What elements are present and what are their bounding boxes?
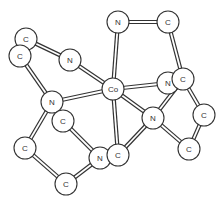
atom-c2: C <box>9 45 31 67</box>
atom-label: C <box>115 151 121 160</box>
atom-label: N <box>165 79 171 88</box>
atom-n4: N <box>41 91 63 113</box>
atom-c8: C <box>107 144 129 166</box>
atom-c5: C <box>52 110 74 132</box>
atom-label: C <box>63 180 69 189</box>
atom-c7: C <box>14 137 36 159</box>
atom-label: N <box>67 56 73 65</box>
atom-label: C <box>17 52 23 61</box>
atom-c9: C <box>178 138 200 160</box>
atom-c3: C <box>157 11 179 33</box>
atom-n5: N <box>142 107 164 129</box>
atom-label: C <box>23 35 29 44</box>
atom-label: N <box>150 114 156 123</box>
cobalt-complex-diagram: NCNCCCoNCNCNCCCNCC <box>0 0 224 201</box>
atom-label: N <box>115 18 121 27</box>
atom-label: C <box>60 117 66 126</box>
atom-c6: C <box>193 104 215 126</box>
atom-label: C <box>201 111 207 120</box>
atom-n1: N <box>59 49 81 71</box>
atom-label: C <box>180 75 186 84</box>
atom-label: C <box>165 18 171 27</box>
atom-co: Co <box>102 78 124 100</box>
atom-label: C <box>186 145 192 154</box>
atom-label: C <box>22 144 28 153</box>
atom-c10: C <box>55 173 77 195</box>
atom-label: N <box>49 98 55 107</box>
atom-n2: N <box>107 11 129 33</box>
atom-label: N <box>97 154 103 163</box>
atom-label: Co <box>108 85 119 94</box>
atom-c4: C <box>172 68 194 90</box>
